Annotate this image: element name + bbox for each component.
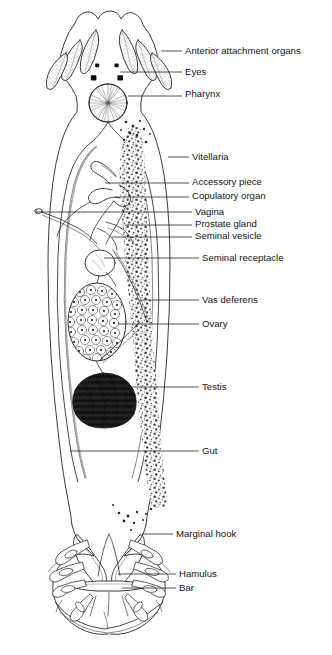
- diagram-canvas: Anterior attachment organsEyesPharynxVit…: [0, 0, 332, 655]
- label-group: Anterior attachment organsEyesPharynxVit…: [176, 45, 301, 593]
- label-ovary: Ovary: [202, 318, 228, 329]
- label-eyes: Eyes: [185, 66, 207, 77]
- label-prostate-gland: Prostate gland: [195, 218, 257, 229]
- label-gut: Gut: [202, 445, 218, 456]
- label-pharynx: Pharynx: [185, 88, 220, 99]
- label-vas-deferens: Vas deferens: [202, 294, 258, 305]
- label-hamulus: Hamulus: [179, 568, 217, 579]
- label-accessory-piece: Accessory piece: [192, 176, 262, 187]
- label-bar: Bar: [179, 582, 195, 593]
- label-vagina: Vagina: [195, 206, 225, 217]
- seminal-receptacle: [85, 250, 116, 288]
- haptor: [53, 525, 166, 634]
- label-seminal-receptacle: Seminal receptacle: [202, 252, 284, 263]
- label-vitellaria: Vitellaria: [192, 151, 229, 162]
- label-seminal-vesicle: Seminal vesicle: [195, 230, 262, 241]
- label-testis: Testis: [202, 381, 227, 392]
- fluke-anatomy-figure: Anterior attachment organsEyesPharynxVit…: [0, 0, 332, 655]
- label-marginal-hook: Marginal hook: [176, 528, 236, 539]
- label-copulatory-organ: Copulatory organ: [192, 190, 266, 201]
- label-anterior-attachment-organs: Anterior attachment organs: [185, 45, 301, 56]
- testis: [73, 373, 137, 428]
